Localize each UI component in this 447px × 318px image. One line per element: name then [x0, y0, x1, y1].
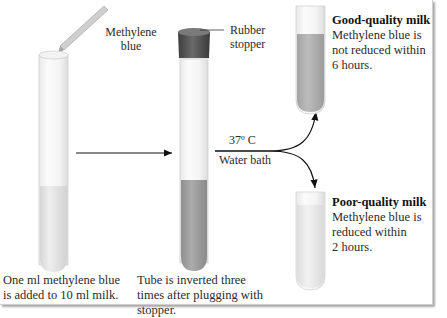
diagram-panel: Methylene blue Rubber stopper 37º C Wate… [0, 0, 433, 305]
good-quality-title: Good-quality milk [332, 13, 430, 28]
water-bath-label: Water bath [219, 153, 271, 167]
temperature-label: 37º C [229, 133, 256, 147]
good-quality-outcome: Good-quality milk Methylene blue is not … [332, 13, 430, 73]
test-tube-milk [39, 51, 68, 272]
test-tube-stoppered [178, 28, 210, 271]
poor-quality-outcome: Poor-quality milk Methylene blue is redu… [332, 195, 426, 255]
step-2-caption: Tube is inverted three times after plugg… [137, 273, 263, 318]
rubber-stopper-label: Rubber stopper [230, 23, 265, 51]
methylene-blue-label: Methylene blue [96, 25, 166, 53]
test-tube-good-quality [296, 6, 325, 114]
poor-quality-title: Poor-quality milk [332, 195, 426, 210]
step-1-caption: One ml methylene blue is added to 10 ml … [3, 273, 120, 303]
test-tube-poor-quality [296, 192, 325, 290]
